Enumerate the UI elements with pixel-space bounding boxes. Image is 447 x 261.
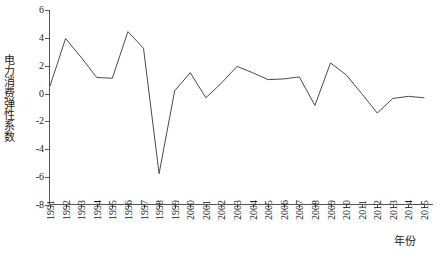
x-axis-tick-label: 2004	[248, 200, 259, 220]
y-axis-tick	[45, 121, 49, 122]
y-axis-tick-label: -6	[22, 171, 44, 182]
y-axis-tick-label: 6	[22, 4, 44, 15]
x-axis-tick-label: 2010	[341, 200, 352, 220]
x-axis-tick-label: 2007	[294, 200, 305, 220]
y-axis-tick	[45, 66, 49, 67]
y-axis-tick	[45, 177, 49, 178]
y-axis-tick	[45, 94, 49, 95]
x-axis-tick-label: 2014	[403, 200, 414, 220]
x-axis-tick-label: 2009	[326, 200, 337, 220]
x-axis-tick-label: 2011	[357, 200, 368, 220]
x-axis-tick-label: 1993	[76, 200, 87, 220]
y-axis-tick-label: 2	[22, 60, 44, 71]
x-axis-tick-label: 1995	[107, 200, 118, 220]
x-axis-tick-label: 1994	[92, 200, 103, 220]
x-axis-tick-label: 2000	[185, 200, 196, 220]
x-axis-tick-label: 2012	[372, 200, 383, 220]
x-axis-tick-label: 2015	[419, 200, 430, 220]
y-axis-tick-label: 0	[22, 88, 44, 99]
x-axis-tick-label: 1999	[170, 200, 181, 220]
y-axis-tick-label: -4	[22, 143, 44, 154]
chart-container: 电力消费弹性系数 6420-2-4-6-8 年份 199119921993199…	[0, 0, 447, 261]
series-line	[49, 10, 433, 205]
x-axis-tick-label: 1998	[154, 200, 165, 220]
x-axis-tick-label: 2001	[201, 200, 212, 220]
x-axis-tick-label: 2002	[216, 200, 227, 220]
x-axis-tick-label: 1996	[123, 200, 134, 220]
x-axis-tick-label: 2005	[263, 200, 274, 220]
x-axis-tick-label: 1991	[45, 200, 56, 220]
x-axis-tick-label: 2003	[232, 200, 243, 220]
y-axis-title: 电力消费弹性系数	[1, 14, 17, 182]
x-axis-tick-label: 2008	[310, 200, 321, 220]
x-axis-tick-label: 1992	[61, 200, 72, 220]
y-axis-tick-label: -8	[22, 199, 44, 210]
plot-area	[49, 10, 433, 205]
x-axis-tick-label: 2006	[279, 200, 290, 220]
x-axis-tick-label: 2013	[388, 200, 399, 220]
y-axis-tick-label: -2	[22, 115, 44, 126]
y-axis-tick	[45, 149, 49, 150]
x-axis-title: 年份	[394, 232, 416, 248]
y-axis-tick	[45, 38, 49, 39]
y-axis-tick-label: 4	[22, 32, 44, 43]
y-axis-tick-labels: 6420-2-4-6-8	[22, 10, 44, 205]
x-axis-tick-label: 1997	[139, 200, 150, 220]
y-axis-tick	[45, 10, 49, 11]
